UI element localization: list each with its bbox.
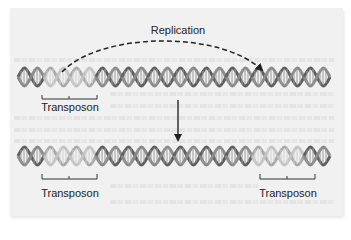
- replication-label: Replication: [151, 24, 205, 36]
- bottom-dna-helix: [18, 147, 330, 165]
- bottom-right-transposon-bracket: [260, 174, 315, 179]
- top-transposon-segment: [44, 68, 70, 86]
- bottom-left-transposon-label: Transposon: [41, 187, 99, 199]
- bottom-right-transposon-label: Transposon: [259, 187, 317, 199]
- top-dna-helix: [18, 68, 330, 86]
- top-transposon-bracket: [42, 95, 97, 99]
- bottom-left-transposon-bracket: [42, 174, 97, 179]
- top-transposon-label: Transposon: [41, 101, 99, 113]
